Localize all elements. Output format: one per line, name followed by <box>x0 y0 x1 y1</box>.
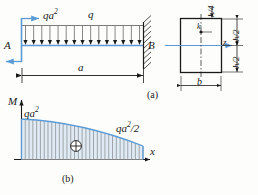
load-arrow-head <box>40 40 44 45</box>
moment-load-exponent: 2 <box>54 7 58 16</box>
moment-load-base: qa <box>43 9 54 21</box>
load-arrow-head <box>97 40 101 45</box>
span-label: a <box>78 62 84 73</box>
caption-a: (a) <box>147 90 158 100</box>
load-arrow-head <box>32 40 36 45</box>
cross-section-diagram <box>165 6 243 91</box>
load-arrow-head <box>23 40 27 45</box>
moment-left-exponent: 2 <box>35 105 39 114</box>
h4-label: h/4 <box>207 5 216 17</box>
support-hatch-line <box>144 21 151 28</box>
support-hatch-line <box>144 62 151 69</box>
load-arrow-head <box>113 40 117 45</box>
distributed-load-arrows <box>23 26 141 45</box>
moment-right-base: qa <box>116 122 127 134</box>
load-arrow-head <box>121 40 125 45</box>
load-arrow-head <box>72 40 76 45</box>
figure-canvas <box>0 0 258 195</box>
support-hatch-line <box>144 57 151 64</box>
moment-left-base: qa <box>24 107 35 119</box>
engineering-figure: A B qa2 q a M x qa2 qa2/2 h/4 h/2 h/2 b … <box>0 0 258 195</box>
load-arrow-head <box>105 40 109 45</box>
point-k-label: k <box>197 23 201 31</box>
support-hatch-line <box>144 16 151 23</box>
moment-left-value-label: qa2 <box>24 106 39 119</box>
z-axis-label: z <box>223 38 227 47</box>
x-axis-label: x <box>150 146 155 157</box>
caption-b: (b) <box>62 174 74 184</box>
load-arrow-head <box>129 40 133 45</box>
load-arrow-head <box>89 40 93 45</box>
moment-right-suffix: /2 <box>131 122 140 134</box>
load-arrow-head <box>64 40 68 45</box>
load-arrow-head <box>48 40 52 45</box>
moment-load-label: qa2 <box>43 8 58 21</box>
moment-axis-label: M <box>8 96 17 107</box>
lower-half-label: h/2 <box>232 56 241 68</box>
support-hatch-line <box>144 52 151 59</box>
distributed-load-label: q <box>88 9 94 20</box>
load-arrow-head <box>80 40 84 45</box>
load-arrow-head <box>56 40 60 45</box>
support-b-label: B <box>148 40 155 51</box>
support-a-label: A <box>4 40 11 51</box>
support-hatch-line <box>144 31 151 37</box>
load-arrow-head <box>137 40 141 45</box>
moment-right-value-label: qa2/2 <box>116 121 139 134</box>
support-hatch-line <box>144 26 151 33</box>
width-label: b <box>197 77 202 87</box>
upper-half-label: h/2 <box>232 29 241 41</box>
